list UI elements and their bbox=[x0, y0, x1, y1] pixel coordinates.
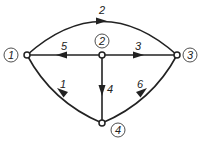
edge-6: 6 bbox=[102, 55, 177, 123]
edge-label-4: 4 bbox=[107, 83, 113, 95]
edge-4: 4 bbox=[99, 55, 114, 123]
edge-label-6: 6 bbox=[137, 78, 144, 90]
node-1: 1 bbox=[4, 48, 30, 62]
node-label-1: 1 bbox=[8, 49, 14, 61]
node-label-4: 4 bbox=[115, 124, 121, 136]
node-label-2: 2 bbox=[98, 35, 105, 47]
edge-5: 5 bbox=[27, 40, 102, 59]
node-label-3: 3 bbox=[187, 49, 194, 61]
node-4: 4 bbox=[99, 120, 125, 137]
edge-label-5: 5 bbox=[61, 40, 68, 52]
arrowhead-icon bbox=[133, 52, 144, 59]
edge-2: 2 bbox=[27, 4, 177, 55]
edge-label-2: 2 bbox=[98, 4, 105, 16]
directed-graph-diagram: 2 5 3 4 1 6 1 2 bbox=[0, 0, 202, 141]
edge-label-3: 3 bbox=[135, 40, 142, 52]
arrowhead-icon bbox=[96, 18, 107, 25]
edge-1: 1 bbox=[27, 55, 102, 123]
edge-label-1: 1 bbox=[60, 78, 66, 90]
arrowhead-icon bbox=[56, 52, 67, 59]
arrowhead-icon bbox=[99, 85, 106, 96]
node-3: 3 bbox=[174, 48, 197, 62]
edge-3: 3 bbox=[102, 40, 177, 59]
